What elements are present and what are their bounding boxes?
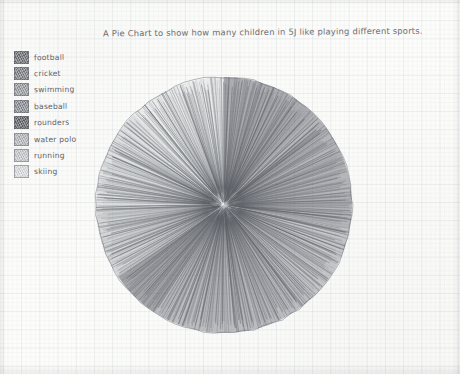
legend-item-label: swimming — [34, 85, 75, 94]
legend-swatch — [14, 116, 29, 129]
legend-swatch — [14, 149, 29, 162]
legend-item-label: football — [34, 53, 64, 62]
legend-item: rounders — [14, 115, 94, 131]
chart-legend: footballcricketswimmingbaseballroundersw… — [14, 49, 94, 180]
legend-swatch — [14, 51, 29, 64]
legend-item: baseball — [14, 98, 94, 114]
legend-item-label: water polo — [34, 134, 76, 143]
legend-item-label: cricket — [34, 69, 61, 78]
pie-chart — [96, 77, 352, 333]
legend-swatch — [14, 100, 29, 113]
legend-item: football — [14, 49, 94, 65]
legend-item: cricket — [14, 65, 94, 81]
pie-chart-svg — [96, 77, 352, 333]
legend-item: swimming — [14, 82, 94, 98]
legend-item: skiing — [14, 164, 94, 180]
legend-swatch — [14, 83, 29, 96]
legend-swatch — [14, 165, 29, 178]
legend-item-label: baseball — [34, 102, 67, 111]
legend-item-label: skiing — [34, 167, 58, 176]
legend-swatch — [14, 67, 29, 80]
legend-item-label: running — [34, 151, 65, 160]
legend-item: running — [14, 147, 94, 163]
legend-item-label: rounders — [34, 118, 69, 127]
legend-swatch — [14, 133, 29, 146]
legend-item: water polo — [14, 131, 94, 147]
